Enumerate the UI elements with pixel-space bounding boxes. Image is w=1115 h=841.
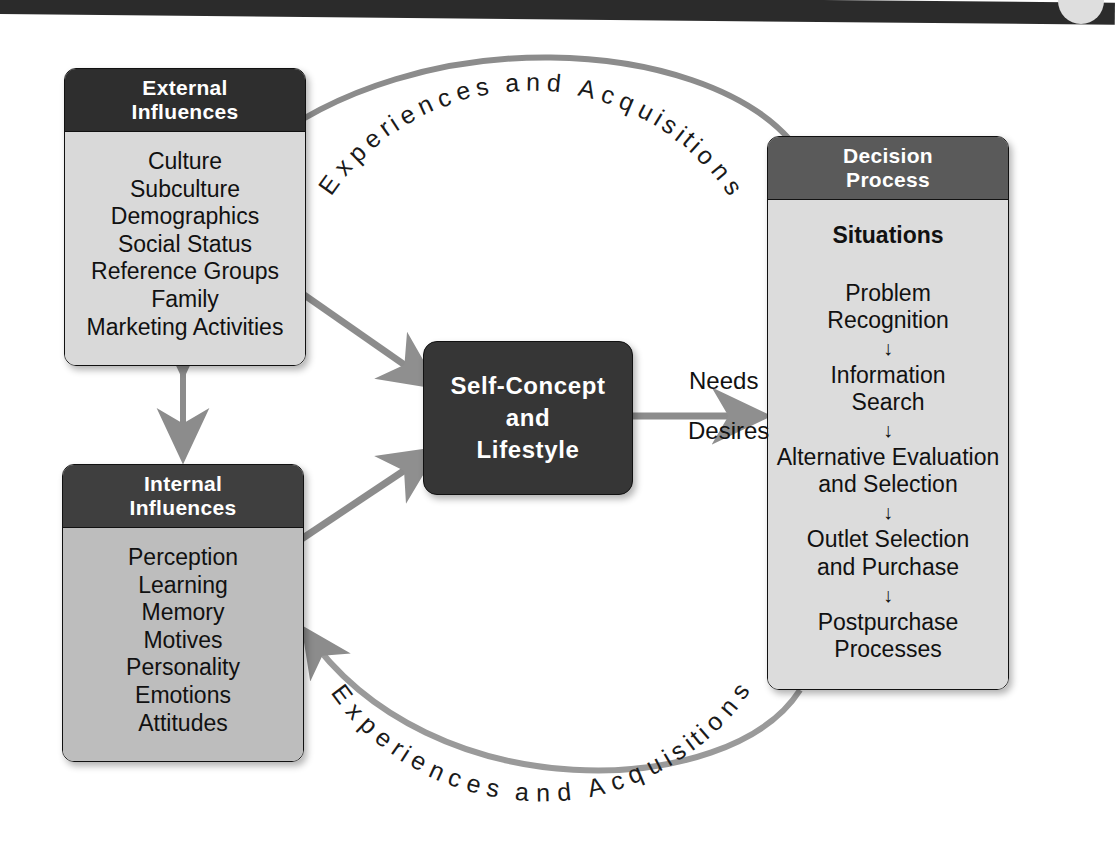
arc-label-char: i <box>692 719 715 744</box>
list-item: Culture <box>65 148 305 176</box>
arc-label-char: n <box>713 692 744 721</box>
step-line1: Information <box>768 362 1008 389</box>
external-title-line2: Influences <box>69 100 301 124</box>
list-item: Subculture <box>65 176 305 204</box>
arc-label-char: n <box>705 157 736 186</box>
arc-label-char: s <box>725 678 756 705</box>
list-item: Family <box>65 286 305 314</box>
internal-influences-list: Perception Learning Memory Motives Perso… <box>63 528 303 762</box>
arc-label-char: n <box>526 67 540 96</box>
arc-label-char: r <box>386 734 409 763</box>
arc-label-char: a <box>504 68 520 98</box>
arc-label-char: s <box>473 71 491 102</box>
external-influences-panel[interactable]: External Influences Culture Subculture D… <box>64 68 306 366</box>
list-item: Personality <box>63 654 303 682</box>
arc-label-char: p <box>354 709 384 740</box>
list-item: Reference Groups <box>65 258 305 286</box>
arc-label-char: c <box>598 79 619 110</box>
arc-label-char: i <box>678 730 700 757</box>
arc-label-char: i <box>396 740 416 767</box>
scanned-page-top-bar <box>0 0 1115 25</box>
arc-label-char: A <box>576 73 599 105</box>
decision-title-line2: Process <box>772 168 1004 192</box>
step-line1: Postpurchase <box>768 609 1008 636</box>
self-concept-label: Self-Concept and Lifestyle <box>450 370 605 465</box>
arc-label-char: s <box>665 735 692 766</box>
label-desires: Desires <box>688 417 769 445</box>
arc-label-char: i <box>649 104 669 132</box>
arc-label-char: d <box>546 68 563 98</box>
decision-step-postpurchase: Postpurchase Processes <box>768 609 1008 663</box>
arrow-internal-to-selfconcept <box>300 452 432 540</box>
external-title-line1: External <box>69 76 301 100</box>
step-line2: Recognition <box>768 307 1008 334</box>
arrow-external-to-selfconcept <box>300 292 432 384</box>
list-item: Perception <box>63 544 303 572</box>
list-item: Learning <box>63 572 303 600</box>
arc-label-char: c <box>433 82 455 114</box>
down-arrow-icon: ↓ <box>768 502 1008 522</box>
label-needs: Needs <box>689 367 758 395</box>
step-line1: Outlet Selection <box>768 526 1008 553</box>
arc-label-char: A <box>585 771 608 803</box>
arc-label-char: q <box>623 758 647 790</box>
down-arrow-icon: ↓ <box>768 420 1008 440</box>
arc-label-char: E <box>312 169 345 200</box>
arc-label-char: n <box>413 89 438 121</box>
internal-influences-header: Internal Influences <box>63 465 303 528</box>
decision-step-outlet-selection: Outlet Selection and Purchase <box>768 526 1008 580</box>
decision-process-header: Decision Process <box>768 137 1008 200</box>
list-item: Emotions <box>63 682 303 710</box>
decision-subtitle-situations: Situations <box>768 222 1008 250</box>
arc-label-char: s <box>484 773 502 804</box>
decision-step-alternative-evaluation: Alternative Evaluation and Selection <box>768 444 1008 498</box>
arc-label-char: e <box>452 75 473 107</box>
internal-title-line2: Influences <box>67 496 299 520</box>
step-line2: and Purchase <box>768 554 1008 581</box>
step-line1: Alternative Evaluation <box>768 444 1008 471</box>
arc-label-char: i <box>657 744 677 772</box>
arc-label-char: i <box>670 120 692 146</box>
arc-label-char: c <box>607 765 628 796</box>
arc-label-char <box>491 69 502 99</box>
arc-label-char: u <box>641 749 667 781</box>
self-concept-line1: Self-Concept <box>450 370 605 402</box>
external-influences-list: Culture Subculture Demographics Social S… <box>65 132 305 366</box>
step-line2: Search <box>768 389 1008 416</box>
internal-title-line1: Internal <box>67 472 299 496</box>
internal-influences-panel[interactable]: Internal Influences Perception Learning … <box>62 464 304 762</box>
arc-label-char: n <box>536 778 550 807</box>
decision-process-panel[interactable]: Decision Process Situations Problem Reco… <box>767 136 1009 690</box>
arc-label-char: d <box>555 777 572 807</box>
arc-label-char: n <box>425 755 450 787</box>
arc-label-char <box>502 776 513 806</box>
arc-label-char: e <box>463 768 484 800</box>
arc-label-char: t <box>684 724 708 751</box>
external-influences-header: External Influences <box>65 69 305 132</box>
arc-label-char: a <box>515 777 531 807</box>
decision-step-problem-recognition: Problem Recognition <box>768 280 1008 334</box>
list-item: Attitudes <box>63 710 303 738</box>
list-item: Memory <box>63 599 303 627</box>
arc-label-char: e <box>370 723 399 754</box>
arc-label-char: s <box>657 110 684 141</box>
down-arrow-icon: ↓ <box>768 585 1008 605</box>
arc-label-char: o <box>691 141 721 171</box>
arc-label-char: e <box>358 123 387 154</box>
arc-label-char: q <box>615 86 639 118</box>
feedback-arc-top <box>255 57 790 152</box>
arc-label-char: c <box>444 762 466 794</box>
step-line2: Processes <box>768 636 1008 663</box>
list-item: Motives <box>63 627 303 655</box>
self-concept-line3: Lifestyle <box>450 434 605 466</box>
list-item: Social Status <box>65 231 305 259</box>
arc-label-char: i <box>684 133 708 158</box>
arc-label-char: p <box>341 138 371 168</box>
arc-label-char: e <box>393 99 419 131</box>
arc-label-char: r <box>374 114 398 142</box>
down-arrow-icon: ↓ <box>768 338 1008 358</box>
self-concept-lifestyle-box[interactable]: Self-Concept and Lifestyle <box>423 341 633 495</box>
arc-label-char: o <box>699 706 729 736</box>
arc-label-char: x <box>328 153 358 181</box>
